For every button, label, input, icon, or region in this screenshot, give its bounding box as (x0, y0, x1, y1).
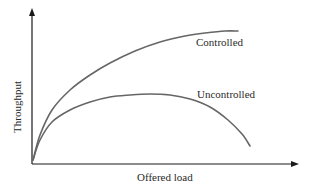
uncontrolled-label: Uncontrolled (197, 88, 256, 100)
controlled-label: Controlled (196, 36, 244, 48)
uncontrolled-curve (33, 94, 250, 160)
throughput-chart: Controlled Uncontrolled Offered load Thr… (0, 0, 312, 191)
y-axis-arrow-icon (29, 8, 35, 16)
x-axis-label: Offered load (137, 171, 193, 183)
x-axis-arrow-icon (291, 161, 299, 167)
y-axis-label: Throughput (11, 81, 23, 133)
